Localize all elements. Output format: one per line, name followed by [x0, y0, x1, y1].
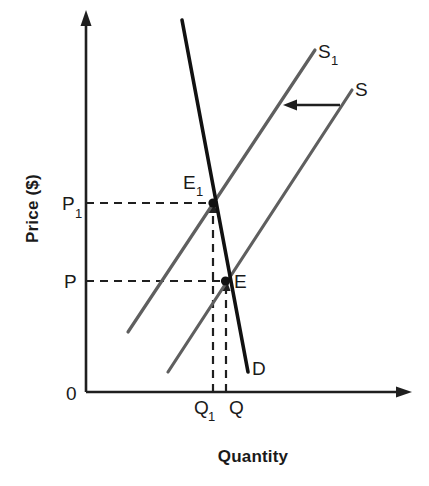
equilibrium-point-e1	[208, 198, 217, 207]
tick-label-price-high-subscript: 1	[75, 206, 82, 221]
curve-label-demand: D	[252, 358, 266, 379]
equilibrium-label-e1-base: E	[183, 172, 196, 193]
supply-demand-figure: Price ($) Quantity 0 P 1 P Q 1 Q E 1 E S…	[0, 0, 429, 486]
equilibrium-point-e	[221, 276, 230, 285]
curve-label-supply-shifted-base: S	[318, 41, 331, 62]
curve-label-supply-original: S	[355, 79, 368, 100]
figure-canvas: Price ($) Quantity 0 P 1 P Q 1 Q E 1 E S…	[0, 0, 429, 486]
equilibrium-label-e: E	[234, 271, 247, 292]
tick-label-qty-high: Q	[229, 397, 244, 418]
tick-label-qty-low-subscript: 1	[208, 409, 215, 424]
tick-label-qty-low-base: Q	[194, 397, 209, 418]
y-axis-title: Price ($)	[23, 174, 42, 243]
curve-label-supply-shifted-subscript: 1	[331, 53, 338, 68]
x-axis-title: Quantity	[218, 447, 289, 466]
tick-label-price-low: P	[64, 271, 77, 292]
origin-label: 0	[66, 383, 77, 404]
tick-label-price-high-base: P	[62, 193, 75, 214]
equilibrium-label-e1-subscript: 1	[196, 184, 203, 199]
